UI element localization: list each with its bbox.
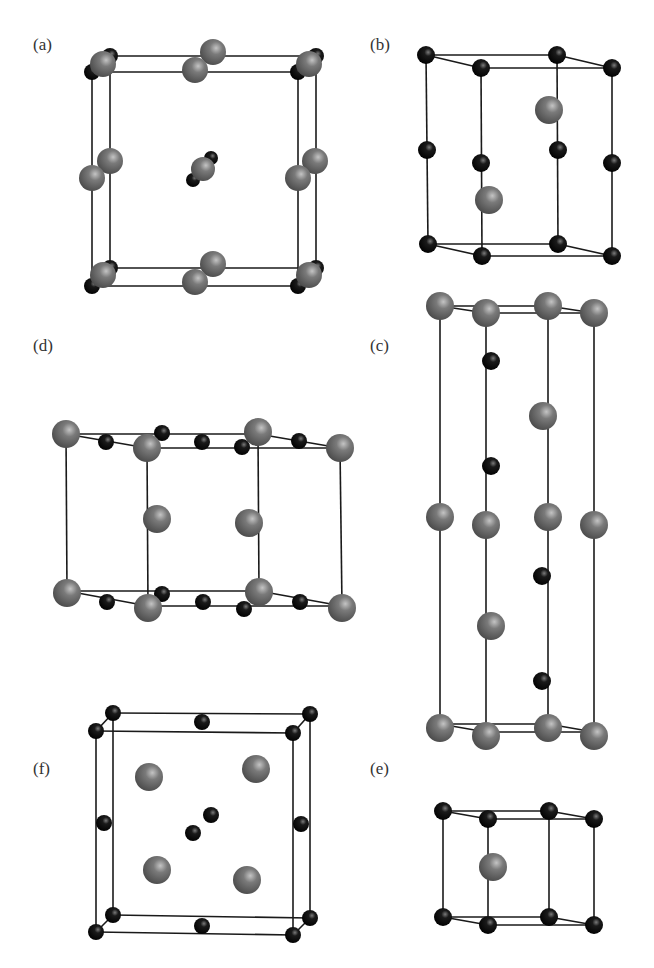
- large-atom: [534, 714, 562, 742]
- large-atom: [191, 157, 215, 181]
- small-atom: [236, 601, 252, 617]
- lattice-edge: [113, 915, 310, 918]
- large-atom: [477, 612, 505, 640]
- small-atom: [96, 815, 112, 831]
- small-atom: [105, 907, 121, 923]
- panel-c-structure: [426, 292, 608, 750]
- large-atom: [235, 509, 263, 537]
- small-atom: [417, 46, 435, 64]
- large-atom: [182, 57, 208, 83]
- small-atom: [285, 927, 301, 943]
- crystal-structure-figure: (a) (b) (d) (c) (f) (e): [0, 0, 654, 968]
- large-atom: [285, 165, 311, 191]
- panel-label-e: (e): [370, 759, 389, 779]
- large-atom: [328, 594, 356, 622]
- small-atom: [99, 594, 115, 610]
- small-atom: [105, 705, 121, 721]
- lattice-edge: [66, 434, 67, 591]
- large-atom: [134, 594, 162, 622]
- large-atom: [79, 165, 105, 191]
- small-atom: [603, 154, 621, 172]
- panel-label-b: (b): [370, 35, 390, 55]
- large-atom: [472, 722, 500, 750]
- large-atom: [244, 418, 272, 446]
- small-atom: [482, 352, 500, 370]
- crystal-structures-canvas: [0, 0, 654, 968]
- small-atom: [194, 918, 210, 934]
- large-atom: [245, 578, 273, 606]
- small-atom: [285, 725, 301, 741]
- small-atom: [533, 567, 551, 585]
- large-atom: [475, 186, 503, 214]
- small-atom: [479, 810, 497, 828]
- large-atom: [143, 856, 171, 884]
- small-atom: [302, 706, 318, 722]
- large-atom: [535, 96, 563, 124]
- small-atom: [434, 802, 452, 820]
- lattice-edge: [340, 448, 342, 606]
- large-atom: [135, 763, 163, 791]
- large-atom: [534, 503, 562, 531]
- small-atom: [418, 141, 436, 159]
- large-atom: [53, 579, 81, 607]
- lattice-edge: [113, 713, 310, 714]
- small-atom: [234, 439, 250, 455]
- large-atom: [233, 866, 261, 894]
- large-atom: [133, 434, 161, 462]
- small-atom: [194, 434, 210, 450]
- large-atom: [90, 262, 116, 288]
- small-atom: [292, 594, 308, 610]
- small-atom: [472, 59, 490, 77]
- large-atom: [326, 434, 354, 462]
- small-atom: [203, 807, 219, 823]
- large-atom: [529, 402, 557, 430]
- large-atom: [52, 420, 80, 448]
- small-atom: [473, 247, 491, 265]
- panel-f-structure: [88, 705, 318, 943]
- small-atom: [185, 825, 201, 841]
- small-atom: [482, 457, 500, 475]
- small-atom: [585, 916, 603, 934]
- small-atom: [548, 46, 566, 64]
- small-atom: [302, 910, 318, 926]
- small-atom: [533, 672, 551, 690]
- small-atom: [472, 154, 490, 172]
- large-atom: [580, 511, 608, 539]
- large-atom: [426, 714, 454, 742]
- small-atom: [585, 810, 603, 828]
- small-atom: [293, 816, 309, 832]
- small-atom: [195, 594, 211, 610]
- small-atom: [540, 802, 558, 820]
- large-atom: [242, 755, 270, 783]
- panel-label-c: (c): [370, 336, 389, 356]
- small-atom: [419, 235, 437, 253]
- small-atom: [98, 434, 114, 450]
- panel-a-structure: [79, 39, 328, 295]
- large-atom: [426, 292, 454, 320]
- small-atom: [88, 723, 104, 739]
- small-atom: [603, 247, 621, 265]
- small-atom: [603, 59, 621, 77]
- large-atom: [296, 262, 322, 288]
- large-atom: [90, 51, 116, 77]
- large-atom: [580, 299, 608, 327]
- small-atom: [549, 235, 567, 253]
- panel-label-f: (f): [33, 759, 50, 779]
- panel-label-a: (a): [33, 35, 52, 55]
- large-atom: [426, 503, 454, 531]
- large-atom: [296, 51, 322, 77]
- large-atom: [472, 511, 500, 539]
- large-atom: [143, 505, 171, 533]
- small-atom: [479, 916, 497, 934]
- panel-d-structure: [52, 418, 356, 622]
- panel-label-d: (d): [33, 336, 53, 356]
- small-atom: [434, 908, 452, 926]
- panel-b-structure: [417, 46, 621, 265]
- small-atom: [88, 924, 104, 940]
- small-atom: [194, 714, 210, 730]
- large-atom: [479, 853, 507, 881]
- small-atom: [540, 908, 558, 926]
- large-atom: [534, 292, 562, 320]
- small-atom: [549, 141, 567, 159]
- small-atom: [291, 433, 307, 449]
